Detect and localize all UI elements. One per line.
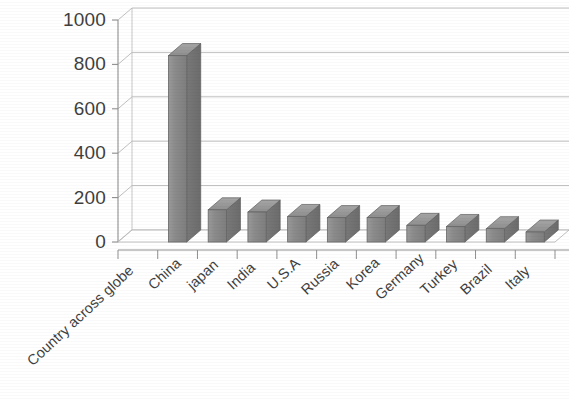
x-axis-ticks — [118, 250, 569, 259]
plot-area — [0, 0, 569, 399]
bar-china — [168, 44, 200, 242]
bar-series — [168, 44, 558, 242]
bar-chart-figure: 10008006004002000 Country across globeCh… — [0, 0, 569, 399]
axis-lines — [112, 8, 132, 242]
